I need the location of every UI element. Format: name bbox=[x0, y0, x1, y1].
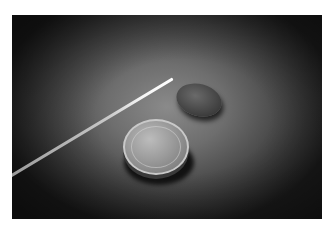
vignette bbox=[12, 15, 322, 219]
coin-front bbox=[123, 119, 189, 175]
photograph bbox=[12, 15, 322, 219]
coin-rim bbox=[131, 126, 181, 168]
